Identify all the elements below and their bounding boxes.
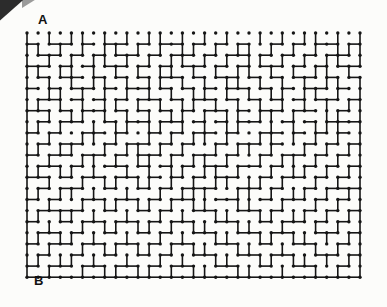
maze-lattice-dot [281,209,284,212]
maze-lattice-dot [59,98,62,101]
maze-lattice-dot [258,165,261,168]
maze-lattice-dot [258,187,261,190]
maze-lattice-dot [59,54,62,57]
maze-lattice-dot [170,142,173,145]
maze-lattice-dot [181,42,184,45]
maze-lattice-dot [270,253,273,256]
maze-lattice-dot [303,120,306,123]
maze-lattice-dot [59,198,62,201]
maze-lattice-dot [336,187,339,190]
maze-lattice-dot [225,276,228,279]
maze-lattice-dot [336,242,339,245]
maze-lattice-dot [347,242,350,245]
maze-lattice-dot [214,264,217,267]
maze-lattice-dot [92,131,95,134]
maze-lattice-dot [303,220,306,223]
maze-lattice-dot [314,31,317,34]
maze-lattice-dot [225,231,228,234]
maze-lattice-dot [270,131,273,134]
maze-lattice-dot [125,231,128,234]
maze-lattice-dot [347,264,350,267]
maze-lattice-dot [159,253,162,256]
maze-lattice-dot [314,242,317,245]
maze-lattice-dot [92,142,95,145]
maze-lattice-dot [181,220,184,223]
maze-lattice-dot [59,76,62,79]
maze-lattice-dot [258,142,261,145]
maze-lattice-dot [136,153,139,156]
maze-lattice-dot [159,187,162,190]
maze-lattice-dot [114,76,117,79]
maze-lattice-dot [214,176,217,179]
maze-lattice-dot [147,242,150,245]
maze-lattice-dot [103,253,106,256]
maze-lattice-dot [81,264,84,267]
maze-lattice-dot [258,42,261,45]
maze-lattice-dot [214,220,217,223]
maze-lattice-dot [36,187,39,190]
maze-lattice-dot [70,142,73,145]
maze-lattice-dot [181,87,184,90]
maze-lattice-dot [247,109,250,112]
maze-lattice-dot [181,120,184,123]
maze-lattice-dot [103,54,106,57]
maze-lattice-dot [125,165,128,168]
maze-lattice-dot [48,165,51,168]
maze-lattice-dot [225,31,228,34]
maze-lattice-dot [181,253,184,256]
maze-lattice-dot [214,109,217,112]
maze-lattice-dot [103,76,106,79]
maze-lattice-dot [358,242,361,245]
maze-lattice-dot [159,131,162,134]
maze-lattice-dot [59,153,62,156]
maze-lattice-dot [81,31,84,34]
maze-lattice-dot [92,76,95,79]
maze-lattice-dot [181,264,184,267]
maze-lattice-dot [225,42,228,45]
maze-lattice-dot [36,209,39,212]
maze-lattice-dot [48,264,51,267]
maze-lattice-dot [225,220,228,223]
maze-lattice-dot [325,87,328,90]
maze-lattice-dot [247,220,250,223]
maze-lattice-dot [92,120,95,123]
maze-lattice-dot [103,276,106,279]
maze-lattice-dot [136,176,139,179]
maze-lattice-dot [59,242,62,245]
maze-lattice-dot [170,153,173,156]
maze-lattice-dot [114,198,117,201]
maze-lattice-dot [181,242,184,245]
maze-lattice-dot [192,87,195,90]
maze-lattice-dot [325,242,328,245]
maze-lattice-dot [214,198,217,201]
maze-lattice-dot [325,264,328,267]
maze-lattice-dot [181,198,184,201]
maze-lattice-dot [281,98,284,101]
maze-lattice-dot [170,276,173,279]
maze-lattice-dot [303,165,306,168]
maze-lattice-dot [281,276,284,279]
maze-lattice-dot [281,31,284,34]
maze-lattice-dot [225,120,228,123]
maze-lattice-dot [281,120,284,123]
maze-lattice-dot [70,98,73,101]
maze-lattice-dot [103,120,106,123]
maze-lattice-dot [70,54,73,57]
maze-lattice-dot [159,120,162,123]
maze-lattice-dot [314,264,317,267]
maze-lattice-dot [247,42,250,45]
maze-lattice-dot [270,264,273,267]
maze-lattice-dot [192,242,195,245]
maze-lattice-dot [25,220,28,223]
maze-lattice-dot [59,176,62,179]
maze-lattice-dot [59,231,62,234]
maze-lattice-dot [103,87,106,90]
maze-lattice-dot [358,142,361,145]
maze-lattice-dot [336,42,339,45]
maze-lattice-dot [70,165,73,168]
maze-lattice-dot [281,253,284,256]
maze-page: A B [0,0,387,307]
maze-lattice-dot [203,31,206,34]
maze-lattice-dot [358,31,361,34]
maze-lattice-dot [214,142,217,145]
